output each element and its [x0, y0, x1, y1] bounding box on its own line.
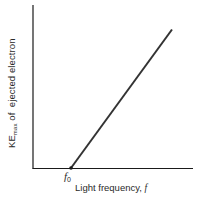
x-axis-label: Light frequency, f — [75, 182, 147, 193]
ke-frequency-line — [71, 30, 172, 169]
chart-canvas — [0, 0, 203, 199]
threshold-frequency-label: f0 — [64, 170, 71, 183]
y-axis-label: KEmax of ejected electron — [6, 0, 20, 148]
